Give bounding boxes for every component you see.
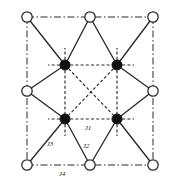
filled-node-bottom-right[interactable] <box>112 114 122 124</box>
filled-node-top-left[interactable] <box>60 60 70 70</box>
filled-node-bottom-left[interactable] <box>60 114 70 124</box>
solid-bond-botright-to-interior <box>117 119 153 165</box>
open-node-top-left[interactable] <box>22 12 32 22</box>
solid-bond-topright-to-interior <box>117 17 153 65</box>
lattice-diagram: J1 J2 J3 J4 <box>0 0 178 183</box>
solid-bond-midright-to-interior-top <box>117 65 153 91</box>
bond-label-j3: J3 <box>47 140 54 148</box>
open-node-top-middle[interactable] <box>85 12 95 22</box>
open-node-top-right[interactable] <box>148 12 158 22</box>
open-node-middle-left[interactable] <box>22 86 32 96</box>
solid-bond-topmid-to-interior-right <box>90 17 117 65</box>
solid-bond-topleft-to-interior <box>27 17 65 65</box>
filled-node-top-right[interactable] <box>112 60 122 70</box>
open-node-bottom-left[interactable] <box>22 160 32 170</box>
bond-label-j2: J2 <box>83 142 90 150</box>
open-node-middle-right[interactable] <box>148 86 158 96</box>
solid-bond-midleft-to-interior-top <box>27 65 65 91</box>
solid-bond-midright-to-interior-bot <box>117 91 153 119</box>
lattice-figure: J1 J2 J3 J4 <box>0 0 178 183</box>
bond-label-j1: J1 <box>85 124 92 132</box>
open-node-bottom-right[interactable] <box>148 160 158 170</box>
bond-label-j4: J4 <box>59 170 66 178</box>
open-node-bottom-middle[interactable] <box>85 160 95 170</box>
solid-bond-botmid-to-interior-right <box>90 119 117 165</box>
solid-bond-midleft-to-interior-bot <box>27 91 65 119</box>
inner-dashed-bond-group <box>65 65 117 119</box>
solid-bond-topmid-to-interior-left <box>65 17 90 65</box>
